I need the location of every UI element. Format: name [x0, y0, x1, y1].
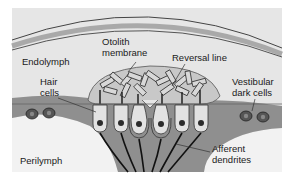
- label-hair-cells-line2: cells: [40, 87, 59, 98]
- label-vestibular-dark-cells-line1: Vestibular: [232, 76, 274, 87]
- label-perilymph: Perilymph: [20, 155, 62, 166]
- label-afferent-dendrites-line1: Afferent: [212, 143, 245, 154]
- label-hair-cells-line1: Hair: [40, 76, 57, 87]
- hair-cell: [175, 105, 189, 132]
- label-otolith-membrane-line1: Otolith: [102, 36, 129, 47]
- label-reversal-line: Reversal line: [172, 52, 227, 63]
- label-otolith-membrane-line2: membrane: [102, 47, 147, 58]
- label-afferent-dendrites-line2: dendrites: [212, 154, 251, 165]
- hair-cell: [194, 105, 208, 132]
- label-vestibular-dark-cells-line2: dark cells: [232, 87, 272, 98]
- otolith-diagram: Endolymph Otolith membrane Reversal line…: [0, 0, 296, 181]
- hair-cell: [93, 105, 107, 132]
- label-endolymph: Endolymph: [22, 56, 70, 67]
- hair-cell: [114, 105, 128, 132]
